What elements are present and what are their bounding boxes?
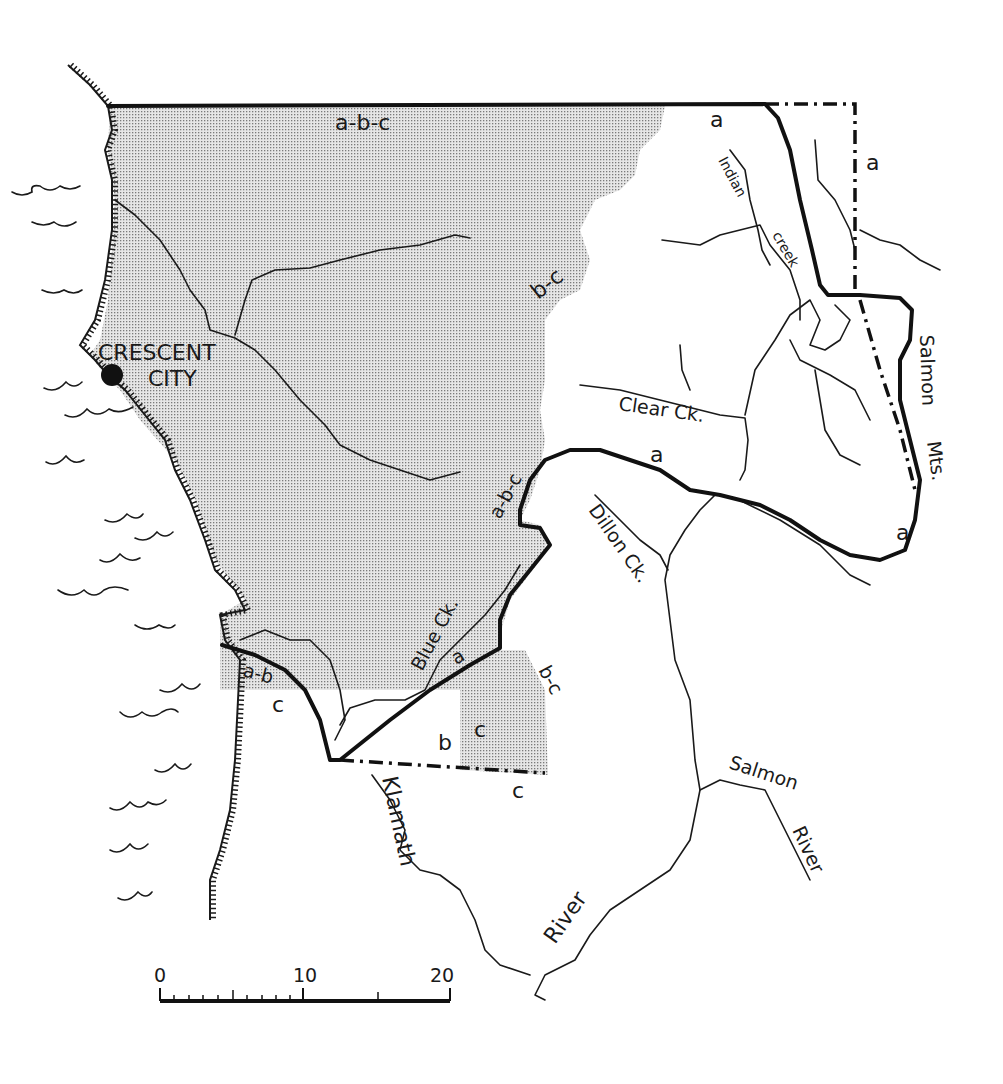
label-east-a: a: [866, 150, 879, 175]
label-klamath: Klamath: [377, 774, 420, 869]
label-salmon-mts-2: Mts.: [923, 439, 950, 481]
label-a-southeast: a: [896, 520, 909, 545]
label-salmon-river-1: Salmon: [727, 751, 801, 794]
scale-tick-20: 20: [430, 964, 454, 986]
label-top-a: a: [710, 107, 723, 132]
scale-bar: 0 10 20: [154, 964, 454, 1001]
label-indian-creek-1: Indian: [715, 154, 749, 200]
label-c-south-outer: c: [512, 778, 524, 803]
city-label-line1: CRESCENT: [98, 340, 216, 365]
label-c-south-inner: c: [474, 717, 486, 742]
shaded-territory: [90, 106, 665, 775]
label-top-abc: a-b-c: [335, 110, 390, 135]
label-salmon-mts-1: Salmon: [916, 334, 940, 406]
city-label-line2: CITY: [148, 366, 197, 391]
label-river: River: [539, 886, 593, 948]
label-c-southwest: c: [272, 692, 284, 717]
map-canvas: CRESCENT CITY a-b-c a a b-c a-b-c a a a-…: [0, 0, 1003, 1084]
label-b-south: b: [438, 730, 452, 755]
label-clear-creek: Clear Ck.: [617, 392, 705, 426]
crescent-city-marker: [101, 364, 123, 386]
scale-tick-0: 0: [154, 964, 166, 986]
scale-tick-10: 10: [293, 964, 317, 986]
label-a-middle: a: [650, 442, 663, 467]
